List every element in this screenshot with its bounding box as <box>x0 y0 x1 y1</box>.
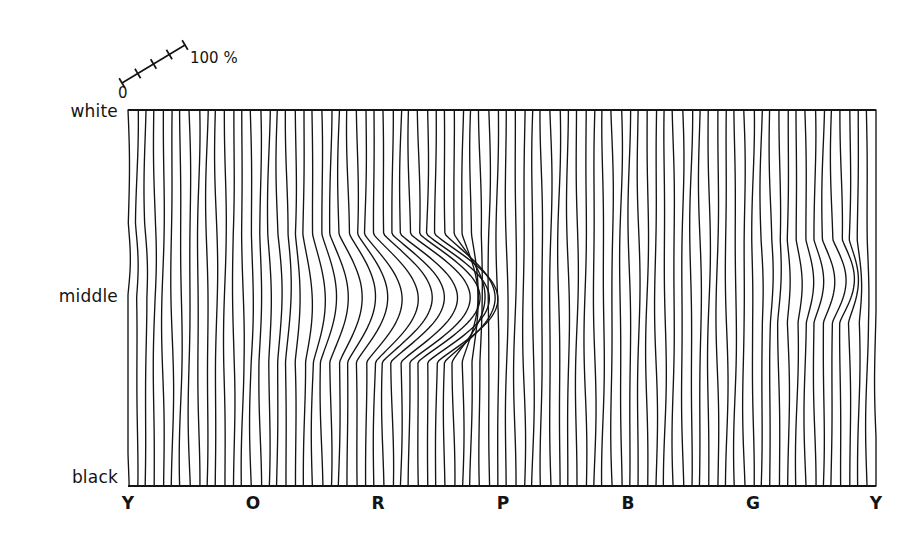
contour-line <box>505 110 508 486</box>
contour-line <box>708 110 711 486</box>
contour-line <box>787 110 790 486</box>
contour-line <box>153 110 156 486</box>
contour-line <box>602 110 605 486</box>
scale-bar-tick <box>182 40 188 49</box>
contour-line <box>857 110 861 486</box>
x-axis-label-r: R <box>363 493 393 513</box>
contour-line <box>241 110 244 486</box>
contour-line <box>250 110 254 486</box>
contour-line <box>550 110 552 486</box>
contour-line <box>752 110 755 486</box>
contour-line <box>584 110 587 486</box>
y-axis-label-black: black <box>72 467 118 487</box>
contour-line <box>179 110 182 486</box>
plot-frame <box>128 110 876 486</box>
contour-line <box>698 110 701 486</box>
contour-line <box>128 110 130 486</box>
contour-line <box>875 110 876 486</box>
contour-line <box>382 110 433 486</box>
contour-line <box>330 110 349 486</box>
contour-line <box>663 110 666 486</box>
contour-line <box>849 110 859 486</box>
contour-line <box>734 110 737 486</box>
contour-plot <box>0 0 922 540</box>
contour-line-group <box>128 110 876 486</box>
contour-line <box>188 110 191 486</box>
contour-line <box>575 110 578 486</box>
contour-line <box>769 110 773 486</box>
scale-bar-tick <box>166 50 172 59</box>
contour-line <box>567 110 570 486</box>
contour-line <box>311 110 325 486</box>
contour-line <box>655 110 658 486</box>
x-axis-label-y1: Y <box>113 493 143 513</box>
contour-line <box>276 110 282 486</box>
contour-line <box>690 110 693 486</box>
figure-root: white middle black Y O R P B G Y 0 100 % <box>0 0 922 540</box>
scale-bar <box>119 40 188 87</box>
contour-line <box>620 110 623 486</box>
contour-line <box>295 110 300 486</box>
contour-line <box>725 110 728 486</box>
contour-line <box>532 110 535 486</box>
x-axis-label-p: P <box>488 493 518 513</box>
x-axis-label-y2: Y <box>861 493 891 513</box>
contour-line <box>628 110 631 486</box>
contour-line <box>135 110 138 486</box>
contour-line <box>682 110 684 486</box>
contour-line <box>611 110 614 486</box>
contour-line <box>514 110 517 486</box>
contour-line <box>804 110 814 486</box>
contour-line <box>215 110 218 486</box>
contour-line <box>672 110 674 486</box>
contour-line <box>822 110 835 486</box>
scale-bar-end-label: 100 % <box>190 49 238 67</box>
contour-line <box>144 110 147 486</box>
contour-line <box>224 110 227 486</box>
contour-line <box>558 110 561 486</box>
contour-line <box>540 110 543 486</box>
contour-line <box>866 110 869 486</box>
contour-line <box>637 110 640 486</box>
y-axis-label-middle: middle <box>59 286 118 306</box>
contour-line <box>743 110 746 486</box>
contour-line <box>373 110 418 486</box>
contour-line <box>259 110 262 486</box>
contour-line <box>795 110 802 486</box>
scale-bar-tick <box>151 59 157 68</box>
contour-line <box>347 110 376 486</box>
y-axis-label-white: white <box>70 101 118 121</box>
contour-line <box>523 110 526 486</box>
contour-line <box>198 110 201 486</box>
contour-line <box>285 110 291 486</box>
contour-line <box>162 110 165 486</box>
x-axis-label-b: B <box>613 493 643 513</box>
contour-line <box>268 110 272 486</box>
contour-line <box>778 110 782 486</box>
contour-line <box>593 110 596 486</box>
contour-line <box>840 110 855 486</box>
contour-line <box>320 110 336 486</box>
contour-line <box>760 110 763 486</box>
x-axis-label-o: O <box>238 493 268 513</box>
contour-line <box>233 110 235 486</box>
x-axis-label-g: G <box>738 493 768 513</box>
contour-line <box>716 110 719 486</box>
scale-bar-start-label: 0 <box>118 84 128 102</box>
contour-line <box>171 110 174 486</box>
scale-bar-tick <box>135 69 141 78</box>
contour-line <box>470 110 479 486</box>
contour-line <box>206 110 209 486</box>
contour-line <box>646 110 649 486</box>
